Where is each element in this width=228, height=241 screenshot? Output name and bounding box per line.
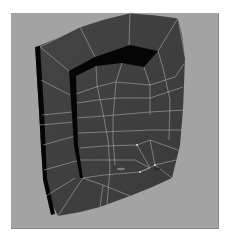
vertex-point[interactable] xyxy=(139,171,141,173)
surface-mark xyxy=(154,168,160,171)
surface-mark xyxy=(117,168,125,170)
mesh-scene[interactable] xyxy=(0,0,228,241)
vertex-point[interactable] xyxy=(154,164,156,166)
vertex-point[interactable] xyxy=(136,144,138,146)
